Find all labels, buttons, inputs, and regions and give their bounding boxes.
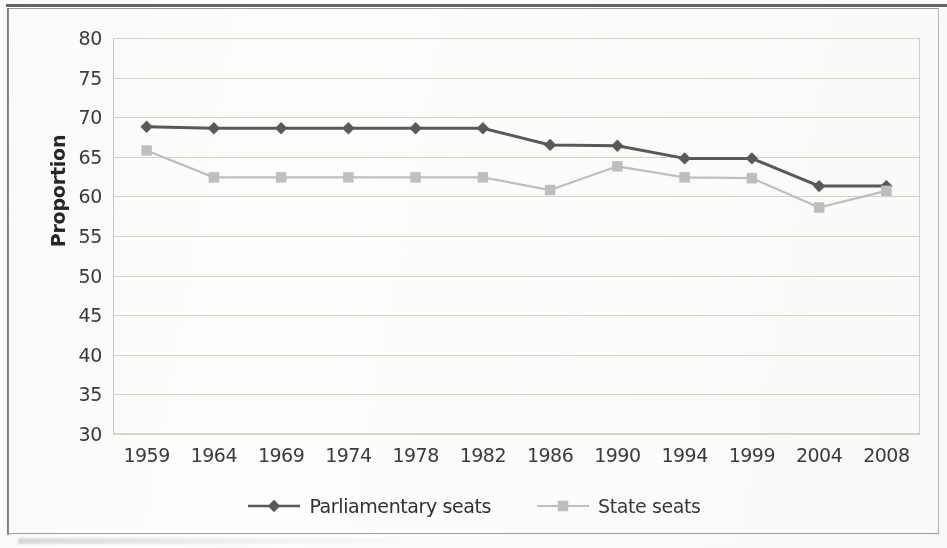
chart-legend: Parliamentary seatsState seats <box>0 495 947 517</box>
x-tick-label: 1964 <box>191 444 237 466</box>
x-tick-label: 1994 <box>661 444 707 466</box>
data-point-marker <box>275 122 287 134</box>
data-point-marker <box>612 161 623 172</box>
data-point-marker <box>611 140 623 152</box>
legend-square-marker-icon <box>535 497 591 515</box>
x-tick-label: 1969 <box>258 444 304 466</box>
series-layer <box>113 38 920 434</box>
data-point-marker <box>544 139 556 151</box>
x-tick-label: 1974 <box>325 444 371 466</box>
x-tick-label: 1999 <box>729 444 775 466</box>
legend-label: Parliamentary seats <box>309 495 491 517</box>
page-top-rule <box>6 4 947 7</box>
y-tick-label: 55 <box>78 225 102 247</box>
data-point-marker <box>343 172 354 183</box>
data-point-marker <box>678 152 690 164</box>
data-point-marker <box>276 172 287 183</box>
data-point-marker <box>814 202 825 213</box>
y-tick-label: 50 <box>78 265 102 287</box>
data-point-marker <box>342 122 354 134</box>
x-tick-label: 1986 <box>527 444 573 466</box>
data-point-marker <box>747 173 758 184</box>
x-tick-label: 1978 <box>392 444 438 466</box>
y-tick-label: 70 <box>78 106 102 128</box>
legend-item[interactable]: State seats <box>535 495 701 517</box>
legend-item[interactable]: Parliamentary seats <box>246 495 491 517</box>
data-point-marker <box>478 172 489 183</box>
x-tick-label: 2008 <box>863 444 909 466</box>
series-state-seats <box>141 145 891 213</box>
data-point-marker <box>140 121 152 133</box>
data-point-marker <box>746 152 758 164</box>
x-tick-label: 1982 <box>460 444 506 466</box>
data-point-marker <box>679 172 690 183</box>
legend-diamond-marker-icon <box>246 497 302 515</box>
x-tick-label: 1959 <box>123 444 169 466</box>
chart-frame-left-edge <box>7 8 9 535</box>
data-point-marker <box>409 122 421 134</box>
y-tick-label: 35 <box>78 383 102 405</box>
y-axis-tick-labels: 8075706560555045403530 <box>52 38 102 434</box>
y-tick-label: 45 <box>78 304 102 326</box>
data-point-marker <box>813 180 825 192</box>
chart-frame-bottom-rule <box>7 533 939 534</box>
data-point-marker <box>209 172 220 183</box>
data-point-marker <box>545 185 556 196</box>
data-point-marker <box>208 122 220 134</box>
series-parliamentary-seats <box>140 121 892 193</box>
y-tick-label: 60 <box>78 185 102 207</box>
legend-label: State seats <box>598 495 701 517</box>
y-tick-label: 80 <box>78 27 102 49</box>
x-tick-label: 2004 <box>796 444 842 466</box>
chart-page: Proportion 8075706560555045403530 195919… <box>0 0 947 548</box>
x-axis-tick-labels: 1959196419691974197819821986199019941999… <box>113 444 920 474</box>
data-point-marker <box>881 186 892 197</box>
scan-smudge <box>18 538 438 544</box>
plot-area <box>113 38 920 434</box>
y-tick-label: 65 <box>78 146 102 168</box>
y-tick-label: 30 <box>78 423 102 445</box>
series-line <box>147 150 887 207</box>
data-point-marker <box>410 172 421 183</box>
gridline <box>113 434 920 435</box>
y-tick-label: 75 <box>78 67 102 89</box>
x-tick-label: 1990 <box>594 444 640 466</box>
y-tick-label: 40 <box>78 344 102 366</box>
data-point-marker <box>141 145 152 156</box>
data-point-marker <box>477 122 489 134</box>
